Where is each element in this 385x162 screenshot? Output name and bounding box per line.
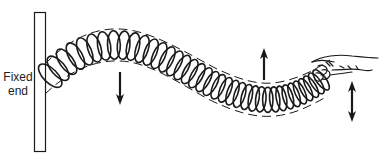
fixed-end-label-line2: end xyxy=(1,84,35,98)
spring-coil xyxy=(132,34,152,64)
spring-coil xyxy=(285,82,303,109)
arrow-double-icon xyxy=(348,81,356,122)
fixed-wall xyxy=(35,13,46,152)
arrow-up-icon xyxy=(260,48,268,80)
fixed-end-label-line1: Fixed xyxy=(1,70,35,84)
spring-coil xyxy=(84,32,105,63)
spring-coil xyxy=(124,32,142,62)
spring-coil xyxy=(231,81,249,109)
arrow-down-icon xyxy=(116,72,124,105)
spring-coil xyxy=(73,35,96,67)
hand-icon xyxy=(312,55,378,81)
wave-diagram xyxy=(0,0,385,162)
fixed-end-label: Fixed end xyxy=(1,70,35,98)
spring-coils xyxy=(35,31,332,113)
